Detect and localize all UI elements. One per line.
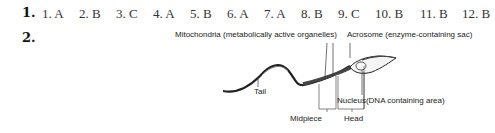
label-nucleus: Nucleus(DNA containing area)	[337, 96, 445, 105]
label-nucleus-name: Nucleus	[337, 96, 366, 105]
label-midpiece: Midpiece	[290, 114, 322, 123]
sperm-head	[350, 56, 396, 73]
label-acrosome: Acrosome (enzyme-containing sac)	[347, 30, 472, 39]
label-head: Head	[344, 114, 363, 123]
sperm-diagram	[0, 0, 495, 133]
label-tail: Tail	[254, 87, 266, 96]
label-nucleus-desc: (DNA containing area)	[366, 96, 445, 105]
label-mitochondria: Mitochondria (metabolically active organ…	[175, 30, 337, 39]
sperm-midpiece	[303, 67, 352, 84]
